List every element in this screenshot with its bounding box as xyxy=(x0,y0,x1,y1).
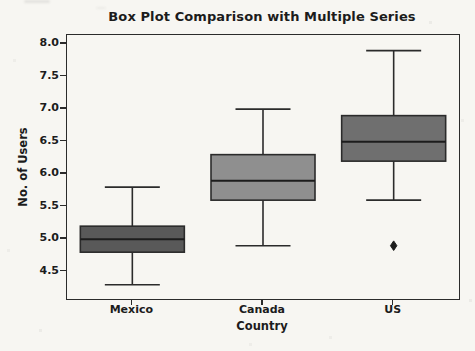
y-tick-mark xyxy=(60,75,66,77)
outlier-us xyxy=(390,241,396,251)
plot-area xyxy=(66,34,460,300)
y-tick-label: 6.0 xyxy=(40,166,60,180)
x-tick-label-canada: Canada xyxy=(239,303,285,316)
y-tick-mark xyxy=(60,205,66,207)
chart-title: Box Plot Comparison with Multiple Series xyxy=(66,9,458,24)
y-tick-mark xyxy=(60,270,66,272)
y-tick-label: 5.0 xyxy=(40,231,60,245)
x-tick-label-mexico: Mexico xyxy=(110,303,153,316)
boxplot-figure: Box Plot Comparison with Multiple Series… xyxy=(0,0,475,351)
box-canada xyxy=(211,155,315,201)
scan-speckles xyxy=(0,0,1,1)
y-tick-label: 7.5 xyxy=(40,69,60,83)
y-tick-label: 7.0 xyxy=(40,101,60,115)
y-tick-mark xyxy=(60,237,66,239)
y-tick-mark xyxy=(60,172,66,174)
x-axis-label: Country xyxy=(66,319,458,333)
x-tick-label-us: US xyxy=(384,303,401,316)
y-tick-mark xyxy=(60,42,66,44)
y-tick-label: 5.5 xyxy=(40,199,60,213)
y-tick-label: 8.0 xyxy=(40,36,60,50)
box-us xyxy=(342,116,446,162)
y-tick-mark xyxy=(60,140,66,142)
y-tick-mark xyxy=(60,107,66,109)
y-tick-label: 6.5 xyxy=(40,134,60,148)
boxplot-canvas xyxy=(67,35,459,299)
scan-artifact xyxy=(24,0,50,3)
y-axis-label: No. of Users xyxy=(16,127,30,206)
y-tick-label: 4.5 xyxy=(40,264,60,278)
